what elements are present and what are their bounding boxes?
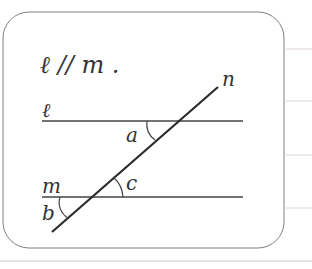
line-m-label: m xyxy=(42,174,61,198)
angle-c-arc xyxy=(113,177,123,197)
ruled-lines xyxy=(286,49,312,208)
angle-b-label: b xyxy=(42,201,55,225)
line-n-label: n xyxy=(222,67,235,91)
line-l-label: ℓ xyxy=(42,98,51,122)
parallel-lines-diagram: ℓ // m . ℓ m n a c b xyxy=(0,0,312,269)
parallel-statement: ℓ // m . xyxy=(40,51,119,79)
angle-a-label: a xyxy=(126,123,138,147)
angle-c-label: c xyxy=(126,171,137,195)
angle-b-arc xyxy=(59,197,68,218)
angle-a-arc xyxy=(147,121,155,140)
transversal-n xyxy=(52,87,218,232)
